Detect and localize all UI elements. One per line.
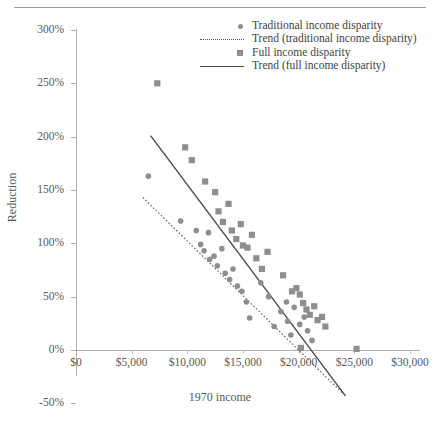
data-point-square bbox=[229, 227, 235, 233]
data-point-circle bbox=[309, 338, 315, 344]
legend-label: Full income disparity bbox=[252, 46, 350, 59]
data-points-layer bbox=[146, 80, 360, 352]
data-point-circle bbox=[244, 299, 250, 305]
data-point-circle bbox=[215, 263, 221, 269]
legend-item-full-points: Full income disparity bbox=[186, 46, 436, 59]
data-point-circle bbox=[178, 218, 184, 224]
data-point-circle bbox=[266, 294, 272, 300]
data-point-square bbox=[182, 144, 188, 150]
data-point-square bbox=[298, 345, 304, 351]
legend-item-full-trend: Trend (full income disparity) bbox=[186, 59, 436, 72]
data-point-square bbox=[264, 249, 270, 255]
data-point-circle bbox=[219, 246, 225, 252]
data-point-circle bbox=[258, 280, 264, 286]
legend-key-circle bbox=[186, 19, 248, 32]
data-point-circle bbox=[305, 328, 311, 334]
legend-label: Trend (traditional income disparity) bbox=[252, 32, 417, 45]
data-point-square bbox=[189, 157, 195, 163]
data-point-square bbox=[225, 201, 231, 207]
data-point-circle bbox=[227, 277, 233, 283]
data-point-circle bbox=[291, 305, 297, 311]
data-point-circle bbox=[198, 242, 204, 248]
data-point-circle bbox=[211, 253, 217, 259]
data-point-square bbox=[154, 80, 160, 86]
data-point-square bbox=[297, 291, 303, 297]
legend-item-traditional-points: Traditional income disparity bbox=[186, 19, 436, 32]
data-point-circle bbox=[201, 248, 207, 254]
data-point-circle bbox=[235, 283, 241, 289]
dotted-line-icon bbox=[200, 39, 244, 40]
data-point-square bbox=[303, 306, 309, 312]
data-point-square bbox=[307, 312, 313, 318]
chart-figure: 300%250%200%150%100%50%0%-50% $0$5,000$1… bbox=[0, 0, 438, 425]
data-point-square bbox=[300, 300, 306, 306]
data-point-square bbox=[212, 189, 218, 195]
data-point-square bbox=[244, 245, 250, 251]
data-point-circle bbox=[288, 332, 294, 338]
data-point-circle bbox=[278, 309, 284, 315]
data-point-circle bbox=[297, 322, 303, 328]
data-point-circle bbox=[247, 315, 253, 321]
data-point-square bbox=[220, 219, 226, 225]
data-point-square bbox=[249, 232, 255, 238]
data-point-circle bbox=[301, 314, 307, 320]
data-point-square bbox=[238, 221, 244, 227]
circle-marker-icon bbox=[238, 24, 243, 29]
data-point-circle bbox=[146, 173, 152, 179]
data-point-circle bbox=[285, 318, 291, 324]
legend-key-dotted-line bbox=[186, 32, 248, 45]
legend-label: Trend (full income disparity) bbox=[252, 59, 385, 72]
data-point-circle bbox=[230, 266, 236, 272]
data-point-square bbox=[259, 266, 265, 272]
data-point-square bbox=[253, 255, 259, 261]
solid-line-icon bbox=[200, 66, 244, 67]
data-point-square bbox=[233, 236, 239, 242]
data-point-square bbox=[293, 285, 299, 291]
data-point-square bbox=[319, 314, 325, 320]
data-point-square bbox=[311, 303, 317, 309]
data-point-circle bbox=[284, 299, 290, 305]
data-point-circle bbox=[239, 289, 245, 295]
chart-legend: Traditional income disparity Trend (trad… bbox=[186, 19, 436, 73]
data-point-square bbox=[202, 178, 208, 184]
data-point-square bbox=[353, 346, 359, 352]
trend-line bbox=[151, 136, 346, 396]
legend-label: Traditional income disparity bbox=[252, 19, 383, 32]
data-point-circle bbox=[271, 324, 277, 330]
data-point-circle bbox=[222, 270, 228, 276]
legend-key-square bbox=[186, 46, 248, 59]
data-point-square bbox=[322, 323, 328, 329]
trend-lines-layer bbox=[143, 136, 346, 396]
data-point-square bbox=[280, 272, 286, 278]
legend-item-traditional-trend: Trend (traditional income disparity) bbox=[186, 32, 436, 45]
data-point-circle bbox=[193, 228, 199, 234]
legend-key-solid-line bbox=[186, 59, 248, 72]
data-point-square bbox=[215, 208, 221, 214]
data-point-circle bbox=[206, 230, 212, 236]
square-marker-icon bbox=[237, 50, 243, 56]
